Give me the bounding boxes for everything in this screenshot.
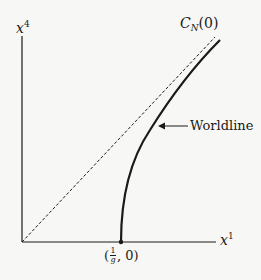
worldline-start-label: ( 1 g , 0) (104, 247, 139, 264)
worldline-arrow-head (158, 123, 165, 130)
light-cone-line (22, 37, 215, 242)
light-cone-label: CN(0) (180, 16, 218, 33)
horizontal-axis-label: x1 (220, 232, 234, 247)
worldline-start-point (119, 240, 123, 244)
vertical-axis-label: x4 (16, 20, 30, 35)
worldline-curve (121, 40, 220, 242)
worldline-label: Worldline (190, 119, 253, 132)
